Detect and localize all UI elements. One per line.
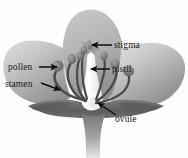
flower-anatomy-figure: stigma pistil pollen stamen ovule xyxy=(0,0,188,158)
ovule-label-text: ovule xyxy=(115,114,137,124)
pollen-label-text: pollen xyxy=(8,62,32,72)
pistil-label-text: pistil xyxy=(112,64,132,74)
anther-4 xyxy=(81,46,87,54)
flower-diagram-canvas: stigma pistil pollen stamen ovule xyxy=(0,0,188,158)
stigma-label-text: stigma xyxy=(114,40,141,50)
stamen-label-text: stamen xyxy=(5,79,33,89)
